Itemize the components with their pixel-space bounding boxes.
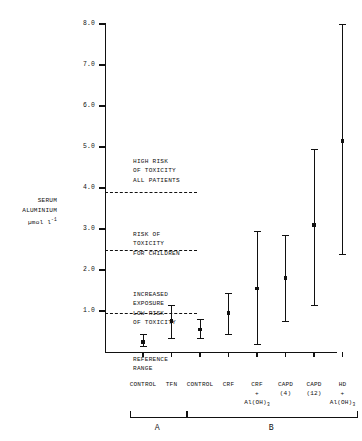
x-category-label-line3: Al(OH)3 [316, 398, 362, 409]
y-tick-mark [99, 187, 106, 188]
threshold-dashed-line [105, 192, 197, 193]
data-point-marker [141, 340, 145, 344]
y-tick-mark [99, 269, 106, 270]
error-bar-cap-lower [225, 334, 232, 335]
zone-label-children-risk: RISK OF TOXICITY FOR CHILDREN [133, 230, 180, 258]
y-tick-mark [99, 310, 106, 311]
y-tick-label: 7.0 [59, 62, 95, 68]
group-bracket-label: B [187, 423, 356, 432]
y-tick-label: 5.0 [59, 144, 95, 150]
y-tick-label: 4.0 [59, 185, 95, 191]
data-point-marker [341, 139, 345, 143]
subscript-3: 3 [352, 402, 355, 407]
error-bar-cap-lower [140, 346, 147, 347]
y-tick-mark [99, 228, 106, 229]
y-tick-label: 2.0 [59, 267, 95, 273]
x-category-label-line3: Al(OH)3 [230, 398, 284, 409]
y-tick-mark [99, 23, 106, 24]
x-tick-mark [171, 352, 172, 357]
error-bar-cap-upper [197, 319, 204, 320]
y-axis-title-line1: SERUM [38, 197, 57, 204]
y-axis-title: SERUM ALUMINIUM µmol l-1 [1, 196, 57, 227]
error-bar-cap-upper [225, 293, 232, 294]
x-tick-mark [285, 352, 286, 357]
subscript-3: 3 [267, 402, 270, 407]
x-tick-mark [228, 352, 229, 357]
zone-label-high-risk: HIGH RISK OF TOXICITY ALL PATIENTS [133, 157, 180, 185]
x-tick-mark [256, 352, 257, 357]
x-tick-mark [199, 352, 200, 357]
group-bracket [187, 411, 358, 418]
y-tick-label: 3.0 [59, 226, 95, 232]
group-bracket-label: A [130, 423, 185, 432]
data-point-marker [255, 287, 259, 291]
error-bar-cap-upper [254, 231, 261, 232]
data-point-marker [170, 319, 174, 323]
data-point-marker [312, 223, 316, 227]
x-category-label-line2: + [316, 389, 362, 398]
x-category-label-line1: HD [339, 381, 347, 388]
data-point-marker [284, 276, 288, 280]
error-bar-cap-lower [311, 305, 318, 306]
y-tick-mark [99, 146, 106, 147]
error-bar-cap-lower [254, 344, 261, 345]
error-bar-cap-upper [140, 334, 147, 335]
error-bar-cap-upper [311, 149, 318, 150]
error-bar-cap-lower [197, 338, 204, 339]
error-bar-cap-lower [282, 321, 289, 322]
y-tick-label: 6.0 [59, 103, 95, 109]
data-point-marker [227, 311, 231, 315]
data-point-marker [198, 328, 202, 332]
x-axis-line [105, 352, 337, 353]
error-bar-line [314, 149, 315, 305]
x-category-label: HD+Al(OH)3 [316, 380, 362, 409]
x-tick-mark [342, 352, 343, 357]
zone-label-reference-range: REFERENCE RANGE [133, 355, 168, 374]
error-bar-cap-upper [339, 24, 346, 25]
y-tick-mark [99, 64, 106, 65]
error-bar-cap-lower [168, 338, 175, 339]
y-tick-mark [99, 105, 106, 106]
y-axis-title-line2: ALUMINIUM [22, 207, 57, 214]
x-tick-mark [142, 352, 143, 357]
error-bar-cap-lower [339, 254, 346, 255]
error-bar-cap-upper [168, 305, 175, 306]
y-tick-label: 8.0 [59, 21, 95, 27]
y-axis-title-line3: µmol l-1 [28, 219, 57, 226]
group-bracket [130, 411, 187, 418]
error-bar-cap-upper [282, 235, 289, 236]
x-tick-mark [313, 352, 314, 357]
y-tick-label: 1.0 [59, 308, 95, 314]
